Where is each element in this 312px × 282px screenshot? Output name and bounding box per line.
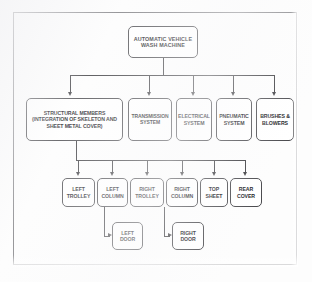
node-pneumatic-system[interactable]: PNEUMATIC SYSTEM: [216, 98, 252, 141]
node-line: COLUMN: [101, 193, 123, 199]
node-line: SHEET: [206, 193, 223, 199]
arrow-brushes: [272, 92, 276, 96]
block-diagram-canvas: AUTOMATIC VEHICLE WASH MACHINE STRUCTURA…: [0, 0, 312, 282]
connector-drop-pneumatic: [233, 75, 234, 92]
arrow-right-column: [180, 172, 184, 176]
node-structural-members[interactable]: STRUCTURAL MEMBERS (INTEGRATION OF SKELE…: [26, 98, 123, 141]
node-line: SHEET METAL COVER): [47, 123, 103, 129]
node-rear-cover[interactable]: REAR COVER: [230, 178, 262, 207]
node-electrical-system[interactable]: ELECTRICAL SYSTEM: [176, 98, 212, 141]
node-brushes-and-blowers[interactable]: BRUSHES & BLOWERS: [256, 98, 294, 141]
connector-drop-electrical: [193, 75, 194, 92]
connector-structural-stem: [76, 141, 77, 160]
arrow-right-trolley: [145, 172, 149, 176]
connector-level2-bus: [76, 160, 245, 161]
arrow-top-sheet: [212, 172, 216, 176]
node-line: SYSTEM: [184, 120, 205, 126]
node-line: BLOWERS: [262, 120, 288, 126]
connector-drop-left-trolley: [78, 160, 79, 172]
connector-drop-right-trolley: [147, 160, 148, 172]
connector-drop-transmission: [149, 75, 150, 92]
node-top-sheet[interactable]: TOP SHEET: [200, 178, 228, 207]
arrow-left-column: [110, 172, 114, 176]
node-line: SYSTEM: [224, 120, 245, 126]
connector-left-column-down: [104, 207, 105, 236]
connector-drop-top-sheet: [214, 160, 215, 172]
node-line: TROLLEY: [135, 193, 159, 199]
node-automatic-vehicle-wash-machine[interactable]: AUTOMATIC VEHICLE WASH MACHINE: [128, 26, 198, 58]
node-line: WASH MACHINE: [141, 42, 185, 48]
connector-drop-brushes: [274, 75, 275, 92]
connector-level1-bus: [70, 75, 275, 76]
node-line: SYSTEM: [140, 120, 160, 126]
node-right-door[interactable]: RIGHT DOOR: [172, 222, 204, 250]
node-left-column[interactable]: LEFT COLUMN: [97, 178, 128, 207]
arrow-transmission: [147, 92, 151, 96]
node-line: DOOR: [120, 236, 135, 242]
connector-drop-rear-cover: [245, 160, 246, 172]
node-transmission-system[interactable]: TRANSMISSION SYSTEM: [128, 98, 172, 141]
node-left-trolley[interactable]: LEFT TROLLEY: [62, 178, 95, 207]
arrow-left-trolley: [76, 172, 80, 176]
node-line: TROLLEY: [67, 193, 91, 199]
node-right-column[interactable]: RIGHT COLUMN: [166, 178, 198, 207]
arrow-rear-cover: [243, 172, 247, 176]
arrow-pneumatic: [231, 92, 235, 96]
node-line: COVER: [237, 193, 255, 199]
arrow-structural: [68, 92, 72, 96]
node-right-trolley[interactable]: RIGHT TROLLEY: [130, 178, 164, 207]
connector-right-column-down: [164, 207, 165, 236]
connector-root-stem: [163, 58, 164, 75]
node-left-door[interactable]: LEFT DOOR: [112, 222, 143, 250]
node-line: DOOR: [180, 236, 195, 242]
connector-drop-structural: [70, 75, 71, 92]
connector-drop-left-column: [112, 160, 113, 172]
node-line: COLUMN: [171, 193, 193, 199]
connector-drop-right-column: [182, 160, 183, 172]
arrow-electrical: [191, 92, 195, 96]
